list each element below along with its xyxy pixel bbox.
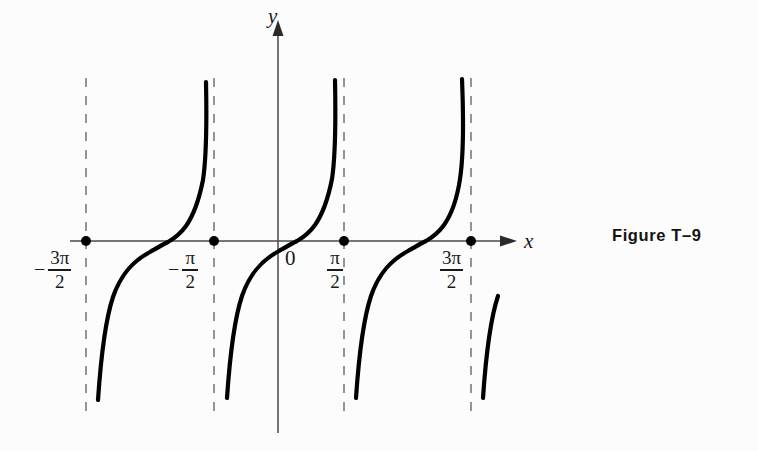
- fraction-numerator: π: [328, 248, 342, 268]
- fraction-denominator: 2: [447, 272, 457, 292]
- origin-label: 0: [285, 248, 296, 269]
- tick-label-neg-pi-over-two: − π 2: [168, 248, 198, 291]
- curve-branch-right: [483, 296, 498, 398]
- tick-label-three-pi-over-two: 3π 2: [437, 248, 463, 291]
- fraction-denominator: 2: [55, 272, 65, 292]
- fraction: π 2: [327, 248, 343, 291]
- fraction: π 2: [182, 248, 198, 291]
- tick-dot-neg-three-pi-over-two: [81, 236, 91, 246]
- tick-dot-three-pi-over-two: [466, 236, 476, 246]
- figure-container: y x 0 − 3π 2 − π 2 π 2 3π 2: [0, 0, 758, 451]
- x-axis-arrowhead: [500, 236, 517, 247]
- x-axis-label: x: [524, 231, 533, 252]
- fraction: 3π 2: [440, 248, 463, 291]
- tick-sign: −: [34, 259, 45, 281]
- curve-branch-mid-right: [356, 79, 463, 398]
- y-axis: [273, 20, 284, 433]
- fraction-denominator: 2: [186, 272, 196, 292]
- tick-dot-neg-pi-over-two: [209, 236, 219, 246]
- tick-label-neg-three-pi-over-two: − 3π 2: [34, 248, 71, 291]
- fraction-denominator: 2: [330, 272, 340, 292]
- tick-label-pi-over-two: π 2: [324, 248, 343, 291]
- fraction-numerator: 3π: [48, 248, 71, 268]
- tick-dot-pi-over-two: [339, 236, 349, 246]
- curve-branch-mid-left: [227, 80, 335, 398]
- fraction: 3π 2: [48, 248, 71, 291]
- tangent-curves: [98, 79, 498, 400]
- tick-sign: −: [168, 259, 179, 281]
- y-axis-label: y: [268, 6, 277, 27]
- fraction-numerator: 3π: [440, 248, 463, 268]
- fraction-numerator: π: [183, 248, 197, 268]
- figure-caption: Figure T–9: [612, 226, 701, 245]
